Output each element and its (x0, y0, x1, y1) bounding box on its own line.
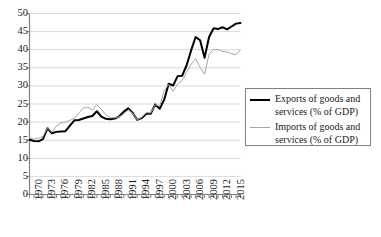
x-axis-tick-label: 2006 (195, 179, 205, 200)
legend-line-swatch-imports (249, 122, 271, 134)
chart-container: 05101520253035404550 1970197319761979198… (0, 0, 381, 237)
legend-item-imports: Imports of goods and services (% of GDP) (249, 121, 367, 146)
x-axis-tick-label: 1988 (114, 179, 124, 200)
x-axis-tick-label: 2009 (209, 179, 219, 200)
x-axis-tick-label: 1970 (34, 179, 44, 200)
legend-label-imports: Imports of goods and services (% of GDP) (275, 121, 367, 146)
x-axis-tick-label: 2015 (236, 179, 246, 200)
x-axis-tick-label: 1982 (87, 179, 97, 200)
legend-item-exports: Exports of goods and services (% of GDP) (249, 93, 367, 118)
x-axis-tick-label: 1997 (155, 179, 165, 200)
x-axis-tick-label: 1979 (74, 179, 84, 200)
x-axis-tick-label: 1985 (101, 179, 111, 200)
chart-legend: Exports of goods and services (% of GDP)… (245, 88, 371, 146)
x-axis-tick-label: 1973 (47, 179, 57, 200)
legend-label-exports: Exports of goods and services (% of GDP) (275, 93, 367, 118)
x-axis-tick-label: 1976 (60, 179, 70, 200)
x-axis-tick-label: 2000 (168, 179, 178, 200)
x-axis-tick-label: 2003 (182, 179, 192, 200)
x-axis-tick-label: 2012 (222, 179, 232, 200)
x-axis-tick-label: 1991 (128, 179, 138, 200)
legend-line-swatch-exports (249, 94, 271, 106)
x-axis-tick-label: 1994 (141, 179, 151, 200)
